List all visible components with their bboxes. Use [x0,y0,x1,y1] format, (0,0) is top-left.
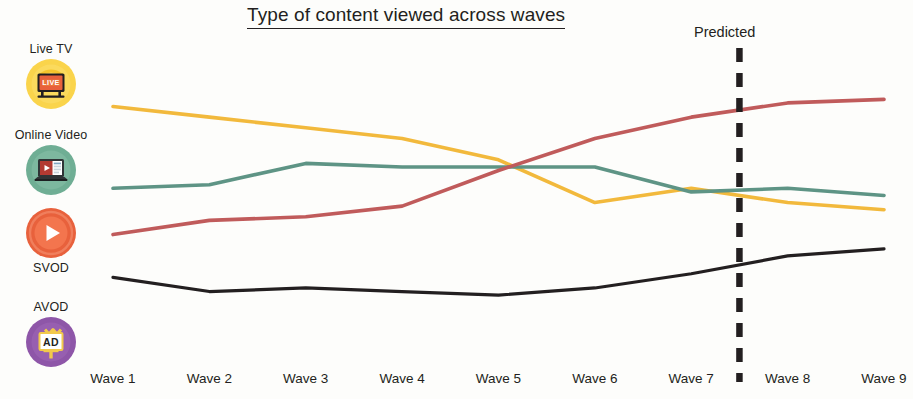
series-line-online-video [113,163,884,195]
series-line-avod [113,249,884,295]
x-axis-labels: Wave 1Wave 2Wave 3Wave 4Wave 5Wave 6Wave… [0,371,913,399]
x-axis-tick-7: Wave 7 [648,371,734,386]
x-axis-tick-8: Wave 8 [745,371,831,386]
chart-svg [0,0,913,399]
x-axis-tick-4: Wave 4 [359,371,445,386]
series-line-live-tv [113,106,884,209]
x-axis-tick-3: Wave 3 [263,371,349,386]
predicted-annotation-label: Predicted [694,24,755,40]
x-axis-tick-1: Wave 1 [70,371,156,386]
chart-series-group [113,99,884,295]
x-axis-tick-6: Wave 6 [552,371,638,386]
chart-screenshot: Type of content viewed across waves Live… [0,0,913,399]
line-chart-plot [0,0,913,399]
x-axis-tick-5: Wave 5 [456,371,542,386]
x-axis-tick-2: Wave 2 [166,371,252,386]
x-axis-tick-9: Wave 9 [841,371,913,386]
